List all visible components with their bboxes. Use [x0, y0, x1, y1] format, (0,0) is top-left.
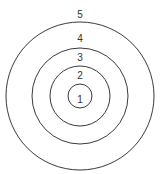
concentric-circles-diagram: 5 4 3 2 1 [0, 0, 160, 174]
ring-label-3: 3 [77, 52, 83, 63]
ring-label-4: 4 [77, 33, 83, 44]
ring-label-1: 1 [77, 94, 83, 105]
ring-label-2: 2 [77, 70, 83, 81]
ring-label-5: 5 [77, 9, 83, 20]
